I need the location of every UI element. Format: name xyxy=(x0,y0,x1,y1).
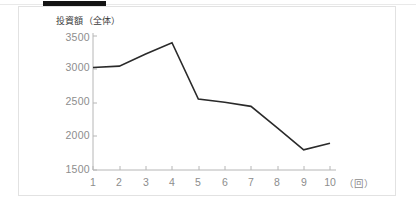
screenshot-root: 投資額（全体） 3500 3000 2500 2000 1500 1 2 3 4… xyxy=(0,0,416,208)
y-axis-ticks xyxy=(93,36,97,170)
data-series-line xyxy=(93,43,330,150)
line-chart-plot xyxy=(0,0,416,208)
x-axis-ticks xyxy=(93,166,330,170)
